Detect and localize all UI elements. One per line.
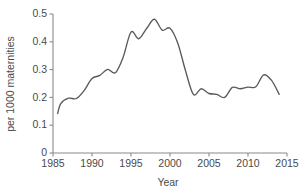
y-tick-label: 0.2: [32, 91, 47, 103]
x-tick-label: 2010: [236, 157, 260, 169]
y-tick-group: 00.10.20.30.40.5: [32, 7, 53, 158]
x-tick-group: 1985199019952000200520102015: [41, 153, 299, 169]
x-tick-label: 1985: [41, 157, 65, 169]
x-axis: 1985199019952000200520102015: [41, 153, 299, 169]
line-chart: 00.10.20.30.40.5 19851990199520002005201…: [0, 0, 301, 194]
x-tick-label: 2015: [275, 157, 299, 169]
y-tick-label: 0.5: [32, 7, 47, 19]
y-tick-label: 0.4: [32, 35, 47, 47]
y-tick-label: 0.1: [32, 118, 47, 130]
x-tick-label: 2000: [158, 157, 182, 169]
x-tick-label: 1995: [119, 157, 143, 169]
plot-area: [58, 19, 280, 113]
x-tick-label: 1990: [80, 157, 104, 169]
x-tick-label: 2005: [197, 157, 221, 169]
chart-svg: 00.10.20.30.40.5 19851990199520002005201…: [0, 0, 301, 194]
y-tick-label: 0.3: [32, 63, 47, 75]
x-axis-title: Year: [157, 176, 179, 188]
y-axis: 00.10.20.30.40.5: [32, 7, 53, 158]
data-series-line: [58, 19, 280, 113]
y-axis-title: per 1000 maternities: [4, 36, 16, 132]
